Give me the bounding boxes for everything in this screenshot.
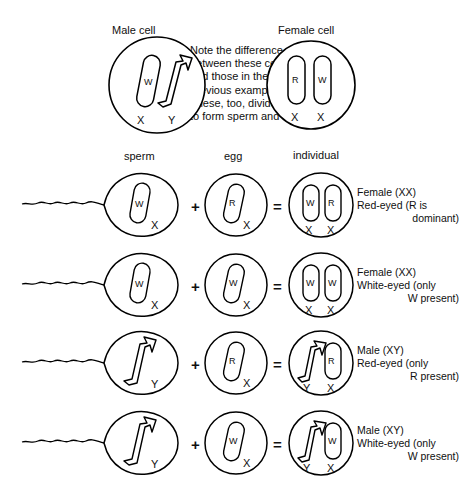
- cross-row: W X W X W W: [22, 253, 353, 317]
- egg-cell: W X: [205, 412, 267, 474]
- individual-membrane: [289, 331, 353, 395]
- individual-axis-label-1: X: [305, 224, 313, 236]
- sperm-cell: W X: [22, 254, 178, 317]
- egg-chromosome-gene: R: [229, 198, 236, 208]
- equals-operator: =: [273, 199, 282, 214]
- egg-chromosome-gene: W: [229, 436, 238, 446]
- individual-chromosome-2: R: [325, 185, 341, 221]
- individual-chromosome-2: W: [325, 423, 341, 459]
- sperm-cell: W X: [22, 174, 178, 237]
- sperm-cell: Y: [22, 412, 178, 475]
- cross-row: Y R X R Y X: [22, 331, 353, 395]
- egg-cell: R X: [205, 174, 267, 236]
- individual-chromosome-2: R: [325, 343, 341, 379]
- plus-operator: +: [191, 357, 200, 372]
- egg-axis-label: X: [243, 299, 251, 311]
- individual-axis-label-1: Y: [303, 382, 311, 394]
- individual-chromosome-1-gene: W: [306, 198, 315, 208]
- outcome-label: Female (XX) Red-eyed (R is dominant): [357, 186, 466, 225]
- sperm-tail: [22, 202, 104, 205]
- equals-operator: =: [273, 279, 282, 294]
- outcome-label: Male (XY) Red-eyed (only R present): [357, 344, 466, 383]
- outcome-label: Male (XY) White-eyed (only W present): [357, 424, 466, 463]
- individual-membrane: [289, 253, 353, 317]
- outcome-line-3: R present): [357, 370, 466, 383]
- individual-axis-label-1: Y: [303, 462, 311, 474]
- equals-operator: =: [273, 357, 282, 372]
- sperm-cell: Y: [22, 332, 178, 395]
- egg-axis-label: X: [243, 219, 251, 231]
- individual-axis-label-1: X: [305, 304, 313, 316]
- individual-axis-label-2: X: [327, 462, 335, 474]
- individual-cell: R Y X: [289, 331, 353, 395]
- individual-chromosome-2-gene: R: [328, 356, 335, 366]
- individual-axis-label-2: X: [327, 382, 335, 394]
- outcome-line-2: White-eyed (only: [357, 279, 436, 291]
- outcome-line-1: Female (XX): [357, 266, 416, 278]
- egg-cell: R X: [205, 332, 267, 394]
- outcome-line-1: Female (XX): [357, 186, 416, 198]
- sperm-tail: [22, 282, 104, 285]
- plus-operator: +: [191, 199, 200, 214]
- egg-cell: W X: [205, 254, 267, 316]
- egg-axis-label: X: [243, 377, 251, 389]
- egg-axis-label: X: [243, 457, 251, 469]
- individual-axis-label-2: X: [327, 224, 335, 236]
- individual-chromosome-1: W: [303, 185, 319, 221]
- individual-chromosome-2-gene: R: [328, 198, 335, 208]
- individual-chromosome-1-gene: W: [306, 278, 315, 288]
- individual-cell: W Y X: [289, 411, 353, 475]
- outcome-line-2: Red-eyed (only: [357, 357, 428, 369]
- individual-chromosome-2: W: [325, 265, 341, 301]
- sperm-axis-label: X: [151, 299, 159, 311]
- individual-membrane: [289, 173, 353, 237]
- individual-chromosome-1: W: [303, 265, 319, 301]
- sperm-tail: [22, 360, 104, 363]
- sperm-tail: [22, 440, 104, 443]
- sperm-chromosome-gene: W: [135, 199, 144, 209]
- plus-operator: +: [191, 437, 200, 452]
- individual-cell: W W X X: [289, 253, 353, 317]
- sperm-axis-label: X: [151, 219, 159, 231]
- outcome-line-1: Male (XY): [357, 344, 404, 356]
- equals-operator: =: [273, 437, 282, 452]
- outcome-line-3: W present): [357, 292, 466, 305]
- individual-chromosome-2-gene: W: [328, 278, 337, 288]
- genetics-inheritance-diagram: Male cell Female cell Note the differenc…: [0, 0, 466, 499]
- outcome-label: Female (XX) White-eyed (only W present): [357, 266, 466, 305]
- individual-membrane: [289, 411, 353, 475]
- outcome-line-1: Male (XY): [357, 424, 404, 436]
- sperm-axis-label: Y: [151, 458, 159, 470]
- outcome-line-2: White-eyed (only: [357, 437, 436, 449]
- plus-operator: +: [191, 279, 200, 294]
- outcome-line-3: dominant): [357, 212, 466, 225]
- egg-chromosome-gene: W: [229, 278, 238, 288]
- sperm-chromosome-gene: W: [135, 279, 144, 289]
- cross-row: Y W X W Y X: [22, 411, 353, 475]
- individual-axis-label-2: X: [327, 304, 335, 316]
- individual-cell: W R X X: [289, 173, 353, 237]
- cross-row: W X R X W: [22, 173, 353, 237]
- individual-chromosome-2-gene: W: [328, 436, 337, 446]
- egg-chromosome-gene: R: [229, 356, 236, 366]
- outcome-line-2: Red-eyed (R is: [357, 199, 427, 211]
- outcome-line-3: W present): [357, 450, 466, 463]
- sperm-axis-label: Y: [151, 378, 159, 390]
